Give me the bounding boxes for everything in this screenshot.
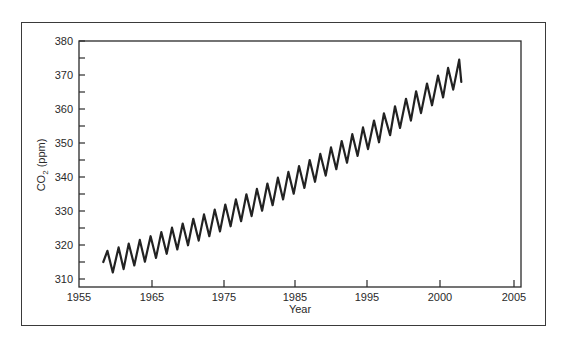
y-axis-title-main: CO xyxy=(35,174,47,191)
y-axis: 310320330340350360370380 xyxy=(55,35,85,285)
co2-line-chart: 310320330340350360370380 195519651975198… xyxy=(0,0,567,348)
y-axis-title-unit: (ppm) xyxy=(35,139,47,171)
x-tick-label: 1965 xyxy=(140,291,164,303)
y-tick-label: 360 xyxy=(55,103,73,115)
y-tick-label: 310 xyxy=(55,273,73,285)
y-tick-label: 370 xyxy=(55,69,73,81)
y-tick-label: 380 xyxy=(55,35,73,47)
y-tick-label: 320 xyxy=(55,239,73,251)
co2-series-line xyxy=(103,60,461,273)
x-axis: 1955196519751985199520002005 xyxy=(67,280,526,303)
y-tick-label: 330 xyxy=(55,205,73,217)
y-tick-label: 340 xyxy=(55,171,73,183)
x-tick-label: 1985 xyxy=(283,291,307,303)
x-tick-label: 2000 xyxy=(428,291,452,303)
x-axis-title: Year xyxy=(289,303,312,315)
x-tick-label: 2005 xyxy=(502,291,526,303)
y-axis-title: CO2 (ppm) xyxy=(35,139,50,192)
x-tick-label: 1975 xyxy=(212,291,236,303)
y-tick-label: 350 xyxy=(55,137,73,149)
x-tick-label: 1955 xyxy=(67,291,91,303)
x-tick-label: 1995 xyxy=(355,291,379,303)
